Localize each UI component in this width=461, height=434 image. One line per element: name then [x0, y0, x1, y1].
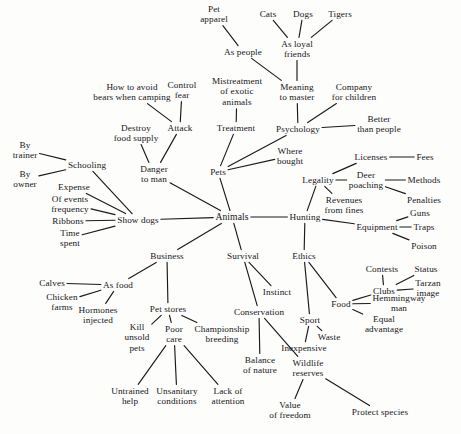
edge-poor_care-to-unsanitary_conditions	[175, 346, 177, 385]
node-wildlife_reserves: Wildlife reserves	[292, 358, 323, 379]
edge-pet_stores-to-poor_care	[170, 315, 172, 322]
edge-expense-to-show_dogs	[86, 193, 125, 213]
node-pets: Pets	[210, 167, 226, 177]
node-guns: Guns	[410, 208, 430, 218]
edge-tigers-to-as_loyal_friends	[311, 20, 332, 37]
edge-sport-to-waste	[317, 326, 322, 330]
edge-meaning_to_master-to-psychology	[297, 104, 298, 123]
edge-hunting-to-equipment	[323, 219, 355, 223]
edge-clubs-to-status	[396, 275, 414, 284]
node-waste: Waste	[318, 332, 341, 342]
edge-show_dogs-to-animals	[161, 218, 213, 220]
node-revenues_from_fines: Revenues from fines	[324, 195, 363, 216]
node-balance_of_nature: Balance of nature	[243, 355, 277, 376]
node-value_of_freedom: Value of freedom	[269, 400, 311, 421]
node-hunting: Hunting	[290, 212, 321, 222]
node-destroy_food_supply: Destroy food supply	[114, 123, 159, 144]
node-by_trainer: By trainer	[13, 140, 38, 161]
node-fees: Fees	[416, 152, 433, 162]
edge-legality-to-revenues_from_fines	[325, 186, 332, 193]
edge-attack-to-danger_to_man	[161, 134, 177, 162]
node-show_dogs: Show dogs	[117, 215, 159, 225]
edge-clubs-to-tarzan_image	[397, 289, 413, 290]
node-as_people: As people	[224, 47, 262, 57]
node-equipment: Equipment	[356, 222, 397, 232]
edge-of_events_frequency-to-show_dogs	[91, 209, 115, 215]
edge-destroy_food_supply-to-danger_to_man	[141, 145, 149, 163]
edge-conservation-to-balance_of_nature	[259, 318, 260, 353]
node-schooling: Schooling	[68, 160, 106, 170]
node-chicken_farms: Chicken farms	[46, 292, 77, 313]
edge-as_food-to-hormones_injected	[106, 291, 114, 303]
edge-equipment-to-poison	[393, 233, 409, 240]
node-business: Business	[150, 251, 183, 261]
edge-poor_care-to-lack_of_attention	[184, 346, 218, 385]
edge-where_bought-to-pets	[228, 159, 275, 169]
edge-pets-to-animals	[220, 178, 230, 210]
node-survival: Survival	[227, 251, 259, 261]
node-cats: Cats	[260, 9, 277, 19]
node-legality: Legality	[302, 175, 333, 185]
node-attack: Attack	[167, 123, 192, 133]
node-pet_apparel: Pet apparel	[200, 4, 228, 25]
node-poison: Poison	[411, 241, 437, 251]
edge-treatment-to-pets	[221, 134, 234, 165]
node-status: Status	[414, 264, 437, 274]
node-poor_care: Poor care	[165, 324, 183, 345]
node-psychology: Psychology	[276, 124, 320, 134]
node-hormones_injected: Hormones injected	[78, 305, 117, 326]
node-by_owner: By owner	[13, 169, 36, 190]
node-how_to_avoid_bears: How to avoid bears when camping	[93, 82, 170, 103]
edge-ethics-to-food	[309, 262, 336, 297]
node-hemmingway_man: Hemmingway man	[372, 293, 425, 314]
edge-pet_apparel-to-as_people	[223, 26, 238, 46]
edge-by_trainer-to-schooling	[40, 154, 66, 160]
node-licenses: Licenses	[355, 152, 388, 162]
node-conservation: Conservation	[234, 307, 284, 317]
node-penalties: Penalties	[407, 195, 441, 205]
edge-better_than_people-to-psychology	[322, 126, 355, 128]
edge-clubs-to-contests	[383, 275, 384, 284]
edge-business-to-pet_stores	[167, 262, 168, 302]
node-protect_species: Protect species	[352, 407, 408, 417]
node-as_food: As food	[103, 280, 133, 290]
edge-by_owner-to-schooling	[39, 170, 66, 176]
node-sport: Sport	[300, 315, 320, 325]
edge-dogs-to-as_loyal_friends	[299, 20, 302, 37]
edge-hunting-to-legality	[307, 186, 316, 210]
node-calves: Calves	[39, 278, 65, 288]
node-animals: Animals	[215, 212, 248, 222]
node-danger_to_man: Danger to man	[140, 164, 168, 185]
node-time_spent: Time spent	[60, 228, 80, 249]
edge-survival-to-instinct	[249, 262, 271, 285]
edge-sport-to-inexpensive	[305, 326, 308, 341]
node-as_loyal_friends: As loyal friends	[281, 39, 313, 60]
concept-map: Pet apparelCatsDogsTigersAs peopleAs loy…	[0, 0, 461, 434]
node-equal_advantage: Equal advantage	[365, 314, 403, 335]
edge-as_food-to-chicken_farms	[80, 290, 101, 296]
node-dogs: Dogs	[293, 9, 313, 19]
edge-deer_poaching-to-penalties	[385, 187, 405, 194]
edge-food-to-clubs	[353, 295, 371, 300]
node-ribbons: Ribbons	[52, 216, 83, 226]
node-better_than_people: Better than people	[357, 114, 401, 135]
node-methods: Methods	[408, 175, 441, 185]
node-lack_of_attention: Lack of attention	[211, 386, 244, 407]
edge-as_food-to-calves	[67, 284, 101, 285]
node-untrained_help: Untrained help	[111, 386, 149, 407]
node-kill_unsold_pets: Kill unsold pets	[124, 322, 149, 353]
node-championship_breeding: Championship breeding	[195, 324, 250, 345]
node-deer_poaching: Deer poaching	[349, 170, 383, 191]
edge-cats-to-as_loyal_friends	[273, 20, 287, 37]
edge-wildlife_reserves-to-value_of_freedom	[295, 380, 303, 399]
edge-control_fear-to-attack	[180, 102, 181, 122]
node-instinct: Instinct	[263, 287, 291, 297]
edge-ethics-to-sport	[305, 262, 310, 313]
edge-time_spent-to-show_dogs	[82, 226, 115, 235]
edge-business-to-as_food	[129, 262, 156, 278]
edge-pet_stores-to-championship_breeding	[182, 315, 197, 322]
edge-animals-to-survival	[234, 223, 241, 249]
node-treatment: Treatment	[217, 123, 255, 133]
node-of_events_frequency: Of events frequency	[51, 194, 89, 215]
node-inexpensive: Inexpensive	[281, 343, 327, 353]
